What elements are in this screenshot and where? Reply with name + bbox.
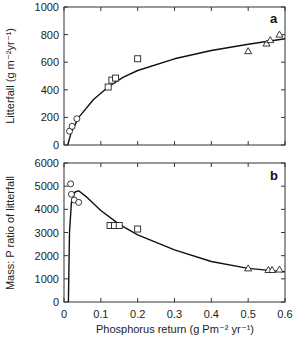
y-axis-label-a: Litterfall (g m⁻²yr⁻¹) bbox=[4, 28, 16, 124]
x-tick-label: 0.2 bbox=[130, 308, 145, 320]
panel-label-a: a bbox=[270, 11, 278, 26]
fit-curve bbox=[68, 39, 285, 145]
x-tick-label: 0.4 bbox=[204, 308, 219, 320]
y-tick-label: 5000 bbox=[35, 180, 59, 192]
x-tick-label: 0.1 bbox=[93, 308, 108, 320]
x-tick-label: 0.3 bbox=[167, 308, 182, 320]
x-tick-label: 0 bbox=[61, 308, 67, 320]
chart: 02004006008001000 00.10.20.30.40.50.6010… bbox=[0, 0, 296, 342]
circle-marker bbox=[76, 199, 82, 205]
x-tick-label: 0.6 bbox=[277, 308, 292, 320]
y-tick-label: 1000 bbox=[35, 1, 59, 13]
y-tick-label: 800 bbox=[41, 29, 59, 41]
triangle-marker bbox=[245, 48, 252, 54]
square-marker bbox=[113, 75, 119, 81]
y-tick-label: 2000 bbox=[35, 250, 59, 262]
fit-curve bbox=[68, 191, 285, 302]
y-tick-label: 0 bbox=[53, 139, 59, 151]
triangle-marker bbox=[276, 266, 283, 272]
square-marker bbox=[135, 56, 141, 62]
circle-marker bbox=[74, 116, 80, 122]
y-tick-label: 200 bbox=[41, 111, 59, 123]
square-marker bbox=[105, 84, 111, 90]
y-tick-label: 6000 bbox=[35, 157, 59, 169]
plot-frame bbox=[64, 7, 285, 145]
y-tick-label: 400 bbox=[41, 84, 59, 96]
y-tick-label: 3000 bbox=[35, 227, 59, 239]
square-marker bbox=[116, 223, 122, 229]
square-marker bbox=[135, 226, 141, 232]
panel-b: 00.10.20.30.40.50.6010002000300040005000… bbox=[35, 157, 293, 320]
y-tick-label: 1000 bbox=[35, 273, 59, 285]
circle-marker bbox=[68, 181, 74, 187]
x-axis-label: Phosphorus return (g Pm⁻² yr⁻¹) bbox=[96, 323, 254, 335]
panel-label-b: b bbox=[270, 168, 278, 183]
circle-marker bbox=[68, 191, 74, 197]
panel-a: 02004006008001000 bbox=[35, 1, 285, 151]
y-axis-label-b: Mass: P ratio of litterfall bbox=[4, 176, 16, 290]
y-tick-label: 0 bbox=[53, 296, 59, 308]
triangle-marker bbox=[267, 37, 274, 43]
y-tick-label: 4000 bbox=[35, 203, 59, 215]
circle-marker bbox=[69, 123, 75, 129]
plot-frame bbox=[64, 163, 285, 302]
y-tick-label: 600 bbox=[41, 56, 59, 68]
x-tick-label: 0.5 bbox=[241, 308, 256, 320]
